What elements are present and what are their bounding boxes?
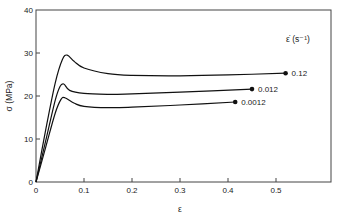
series-label: 0.012 xyxy=(258,85,279,94)
x-tick-label: 0.4 xyxy=(222,186,234,195)
x-axis-ticks: 00.10.20.30.40.5 xyxy=(34,178,282,195)
x-axis-label: ε xyxy=(178,204,182,214)
series-line xyxy=(36,97,235,182)
series-label: 0.0012 xyxy=(241,98,266,107)
stress-strain-chart: 010203040 00.10.20.30.40.5 0.120.0120.00… xyxy=(0,0,338,218)
end-marker xyxy=(250,87,255,92)
end-marker xyxy=(233,100,238,105)
y-tick-label: 30 xyxy=(24,49,33,58)
y-axis-label: σ (MPa) xyxy=(4,80,14,111)
x-tick-label: 0.2 xyxy=(126,186,138,195)
x-tick-label: 0 xyxy=(34,186,39,195)
legend-title: ε̇ (s⁻¹) xyxy=(286,34,310,44)
series-line xyxy=(36,55,286,182)
y-tick-label: 10 xyxy=(24,135,33,144)
series-lines xyxy=(36,55,288,182)
y-tick-label: 40 xyxy=(24,6,33,15)
y-axis-ticks: 010203040 xyxy=(24,6,40,187)
x-tick-label: 0.1 xyxy=(78,186,90,195)
x-tick-label: 0.5 xyxy=(270,186,282,195)
series-line xyxy=(36,84,252,182)
end-marker xyxy=(283,71,288,76)
series-label: 0.12 xyxy=(292,69,308,78)
x-tick-label: 0.3 xyxy=(174,186,186,195)
y-tick-label: 20 xyxy=(24,92,33,101)
